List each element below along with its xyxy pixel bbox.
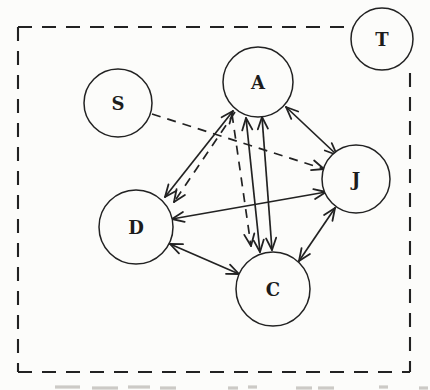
node-C: C (236, 252, 310, 326)
node-J: J (322, 145, 390, 213)
node-T: T (351, 8, 413, 70)
node-label-C: C (266, 279, 280, 300)
node-A: A (223, 47, 293, 117)
node-D: D (99, 190, 173, 264)
sociogram-canvas: TSAJDC (0, 0, 430, 390)
sociogram-figure: TSAJDC (0, 0, 430, 390)
node-label-A: A (250, 72, 266, 93)
node-label-J: J (350, 169, 361, 190)
node-label-T: T (375, 29, 389, 50)
node-label-D: D (128, 217, 144, 238)
node-label-S: S (112, 93, 125, 114)
node-S: S (84, 69, 152, 137)
arrowhead-barb (311, 169, 324, 170)
